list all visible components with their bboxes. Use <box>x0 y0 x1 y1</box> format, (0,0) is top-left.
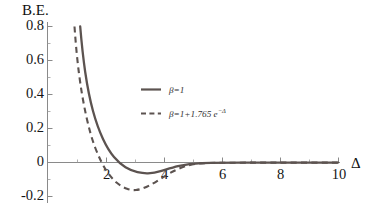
y-axis-title: B.E. <box>22 2 49 18</box>
x-tick-label-6: 6 <box>219 166 226 182</box>
legend-label-beta-one: β=1 <box>168 85 184 95</box>
x-axis-title: Δ <box>351 155 361 171</box>
x-tick-label-8: 8 <box>277 166 284 182</box>
legend-label-beta-exponential-sup: −Δ <box>218 107 226 114</box>
legend-label-beta-exponential-main: β=1+1.765 e <box>168 109 218 119</box>
x-tick-label-10: 10 <box>332 166 347 182</box>
y-tick-label-0.8: 0.8 <box>26 17 44 33</box>
y-tick-label-0.6: 0.6 <box>26 51 44 67</box>
y-tick-label--0.2: -0.2 <box>21 187 44 203</box>
legend-label-beta-exponential: β=1+1.765 e−Δ <box>168 107 226 119</box>
y-tick-label-0: 0 <box>37 153 44 169</box>
chart-figure: 0.8 0.6 0.4 0.2 0 -0.2 2 4 6 8 1 <box>0 0 366 223</box>
y-tick-label-0.4: 0.4 <box>26 85 45 101</box>
chart-svg: 0.8 0.6 0.4 0.2 0 -0.2 2 4 6 8 1 <box>0 0 366 223</box>
y-tick-label-0.2: 0.2 <box>26 119 44 135</box>
